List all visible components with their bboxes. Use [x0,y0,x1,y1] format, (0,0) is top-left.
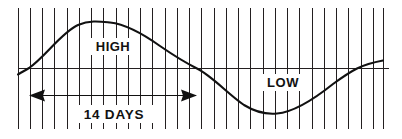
high-label-group: HIGH [86,38,140,55]
low-label-group: LOW [259,74,307,91]
sine-wave-curve [18,21,383,113]
tide-wave-diagram: HIGH LOW 14 DAYS [0,0,402,139]
low-label: LOW [267,75,299,90]
high-label: HIGH [96,39,131,54]
arrow-left-icon [29,90,45,102]
period-label-group: 14 DAYS [72,105,156,123]
period-label: 14 DAYS [84,107,145,122]
